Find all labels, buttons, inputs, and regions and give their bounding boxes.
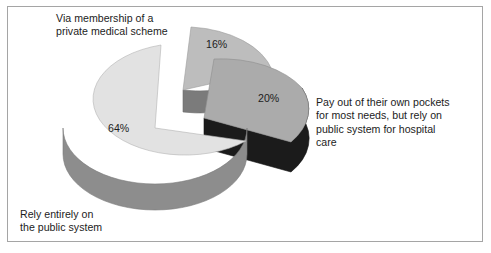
callout-label-own-pockets: Pay out of their own pockets for most ne… xyxy=(316,96,486,150)
pie-slice-20-data-label: 20% xyxy=(258,92,280,104)
pie-slice-16-data-label: 16% xyxy=(206,38,228,50)
callout-label-private-medical-scheme: Via membership of a private medical sche… xyxy=(56,12,226,39)
callout-label-public-system: Rely entirely on the public system xyxy=(20,208,190,235)
pie-slice-20: 20% xyxy=(204,59,309,172)
pie-chart-figure: 16% 20% 64% Via membership of a private … xyxy=(0,0,491,253)
pie-slice-64-data-label: 64% xyxy=(108,122,130,134)
